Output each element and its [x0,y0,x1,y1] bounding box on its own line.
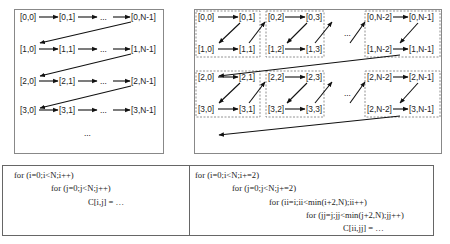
cell-label: [0,3] [306,12,322,22]
cell-label: [1,N-1] [409,44,434,54]
code-line: for (j=0;j<N;j++) [51,183,111,193]
cell-label: [3,N-1] [409,104,434,114]
cell-label: [0,1] [59,12,75,22]
cell-label: [2,N-1] [409,72,434,82]
cell-label: [1,3] [306,44,322,54]
cell-label: [0,N-1] [131,12,156,22]
ellipsis: ... [100,105,107,115]
tiled-diagram: [0,0] [0,1] [1,0] [1,1] [0,2] [0,3] [1,2… [195,10,442,154]
cell-label: [1,N-1] [131,44,156,54]
cell-label: [1,1] [239,44,255,54]
cell-label: [3,0] [198,104,214,114]
cell-label: [0,N-1] [409,12,434,22]
cell-label: [3,3] [306,104,322,114]
cell-label: [3,1] [239,104,255,114]
cell-label: [2,2] [268,72,284,82]
code-line: for (j=0;j<N;j+=2) [232,183,296,193]
code-line: for (i=0;i<N;i+=2) [195,170,259,180]
code-line: C[i,j] = … [88,197,124,207]
code-comparison-table: for (i=0;i<N;i++) for (j=0;j<N;j++) C[i,… [2,165,434,236]
code-line: for (ii=i;ii<min(i+2,N);ii++) [269,197,367,207]
traversal-diagrams: [0,0] [0,1] ... [0,N-1] [1,0] [1,1] ... … [0,0,450,165]
cell-label: [3,1] [59,105,75,115]
cell-label: [2,0] [198,72,214,82]
cell-label: [2,N-1] [131,76,156,86]
ellipsis: ... [84,128,91,138]
ellipsis: ... [100,44,107,54]
cell-label: [1,N-2] [367,44,392,54]
tiled-code: for (i=0;i<N;i+=2) for (j=0;j<N;j+=2) fo… [190,166,433,235]
row-major-diagram: [0,0] [0,1] ... [0,N-1] [1,0] [1,1] ... … [15,10,164,154]
cell-label: [1,0] [20,44,36,54]
cell-label: [0,2] [268,12,284,22]
cell-label: [2,0] [20,76,36,86]
cell-label: [2,N-2] [367,72,392,82]
cell-label: [2,3] [306,72,322,82]
ellipsis: ... [100,76,107,86]
cell-label: [1,1] [59,44,75,54]
code-line: for (i=0;i<N;i++) [14,170,74,180]
cell-label: [3,N-1] [131,105,156,115]
ellipsis: ... [344,28,351,38]
cell-label: [1,2] [268,44,284,54]
cell-label: [0,0] [198,12,214,22]
code-line: C[ii,jj] = … [343,223,384,233]
cell-label: [0,1] [239,12,255,22]
ellipsis: ... [100,12,107,22]
row-major-code: for (i=0;i<N;i++) for (j=0;j<N;j++) C[i,… [3,166,190,235]
cell-label: [0,0] [20,12,36,22]
cell-label: [2,1] [59,76,75,86]
arrow-icon [39,17,131,110]
cell-label: [2,N-2] [367,104,392,114]
cell-label: [1,0] [198,44,214,54]
code-line: for (jj=j;jj<min(j+2,N);jj++) [306,210,404,220]
cell-label: [3,0] [20,105,36,115]
cell-label: [3,2] [268,104,284,114]
ellipsis: ... [344,88,351,98]
cell-label: [0,N-2] [367,12,392,22]
